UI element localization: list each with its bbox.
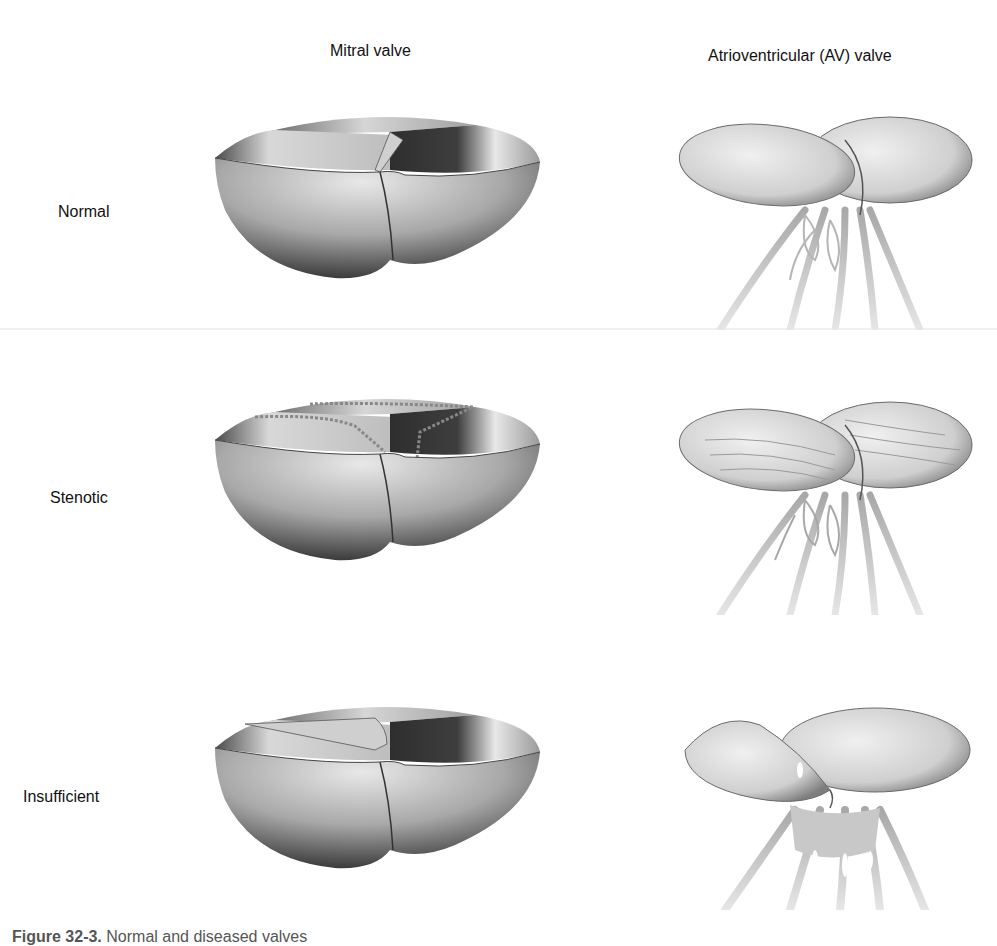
- av-valve-stenotic-illustration: [675, 395, 975, 615]
- row-label-normal: Normal: [58, 203, 110, 221]
- mitral-valve-stenotic-illustration: [215, 392, 545, 562]
- mitral-valve-normal-illustration: [215, 110, 545, 280]
- av-valve-normal-illustration: [675, 110, 975, 330]
- figure-caption: Figure 32-3. Normal and diseased valves: [12, 928, 307, 946]
- figure-caption-text: Normal and diseased valves: [106, 928, 307, 945]
- av-valve-insufficient-illustration: [680, 700, 980, 910]
- mitral-valve-insufficient-illustration: [215, 700, 545, 870]
- column-title-av-valve: Atrioventricular (AV) valve: [708, 47, 892, 65]
- row-label-stenotic: Stenotic: [50, 489, 108, 507]
- row-label-insufficient: Insufficient: [23, 788, 99, 806]
- column-title-mitral-valve: Mitral valve: [330, 42, 411, 60]
- figure-caption-prefix: Figure 32-3.: [12, 928, 102, 945]
